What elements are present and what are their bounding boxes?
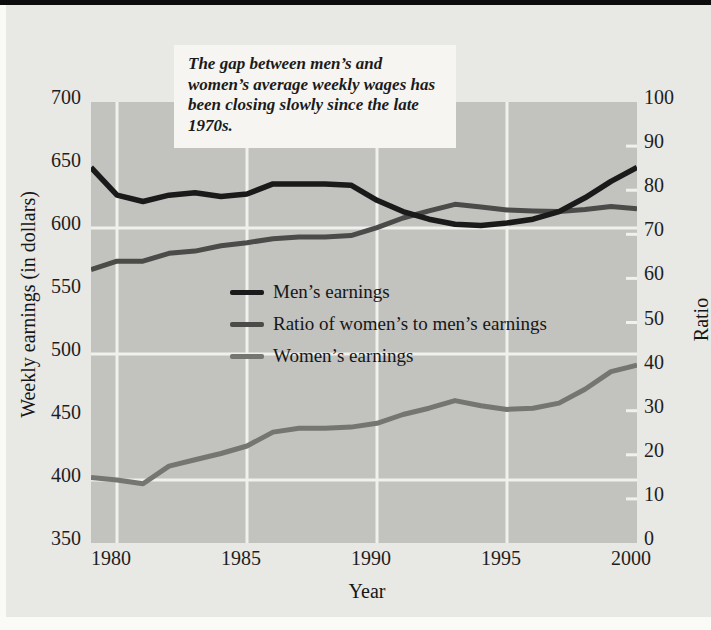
y-axis-tick-right: 60: [644, 261, 694, 285]
mens-earnings-line-swatch: [230, 290, 264, 295]
y-axis-tick-right: 90: [644, 129, 694, 153]
annotation-text: The gap between men’s and women’s averag…: [188, 54, 435, 135]
y-axis-tick-left: 400: [31, 463, 81, 487]
legend-item-mens-earnings: Men’s earnings: [230, 276, 547, 308]
y-axis-tick-right: 80: [644, 173, 694, 197]
x-axis-title: Year: [312, 580, 422, 603]
x-axis-tick: 1995: [466, 546, 536, 570]
y-axis-tick-right: 70: [644, 217, 694, 241]
x-axis-tick: 2000: [596, 546, 666, 570]
y-axis-tick-right: 40: [644, 350, 694, 374]
x-axis-tick: 1980: [76, 546, 146, 570]
y-axis-tick-right: 0: [644, 526, 694, 550]
figure-panel: Men’s earnings Ratio of women’s to men’s…: [6, 5, 711, 617]
legend-item-womens-earnings: Women’s earnings: [230, 340, 547, 372]
legend-label: Women’s earnings: [273, 345, 413, 367]
series-line-2: [91, 365, 637, 484]
legend-item-ratio: Ratio of women’s to men’s earnings: [230, 308, 547, 340]
x-axis-tick: 1985: [206, 546, 276, 570]
y-axis-tick-right: 100: [644, 85, 694, 109]
y-axis-tick-left: 350: [31, 526, 81, 550]
womens-earnings-line-swatch: [230, 354, 264, 359]
y-axis-tick-right: 30: [644, 394, 694, 418]
right-axis-title: Ratio: [690, 275, 711, 365]
ratio-line-swatch: [230, 322, 264, 327]
series-line-0: [91, 168, 637, 226]
annotation-box: The gap between men’s and women’s averag…: [174, 45, 456, 148]
y-axis-tick-right: 10: [644, 482, 694, 506]
legend-label: Men’s earnings: [273, 281, 390, 303]
left-axis-title: Weekly earnings (in dollars): [17, 155, 40, 455]
y-axis-tick-left: 700: [31, 85, 81, 109]
legend-label: Ratio of women’s to men’s earnings: [273, 313, 547, 335]
x-axis-tick: 1990: [336, 546, 406, 570]
y-axis-tick-right: 20: [644, 438, 694, 462]
plot-area: Men’s earnings Ratio of women’s to men’s…: [91, 102, 637, 543]
legend: Men’s earnings Ratio of women’s to men’s…: [230, 276, 547, 372]
y-axis-tick-right: 50: [644, 306, 694, 330]
